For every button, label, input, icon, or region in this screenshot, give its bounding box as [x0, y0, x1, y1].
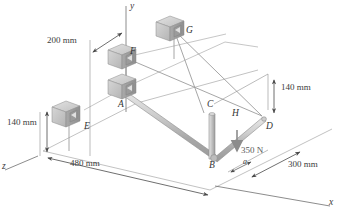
pipe-segment-BC — [209, 113, 215, 159]
point-label-G: G — [186, 26, 193, 36]
point-label-D: D — [266, 122, 273, 132]
point-label-A: A — [118, 100, 124, 110]
x-axis-label: x — [329, 198, 333, 208]
cable-G-to-D — [174, 30, 262, 116]
point-label-E: E — [84, 122, 90, 132]
dimension-label-140mm-right: 140 mm — [281, 83, 311, 92]
dimension-label-480mm: 480 mm — [70, 159, 100, 168]
support-bracket-E — [52, 101, 80, 127]
dimension-label-a: a — [243, 158, 247, 166]
z-axis-line — [5, 156, 38, 170]
point-label-H: H — [232, 109, 239, 119]
load-label-350N: 350 N — [241, 146, 263, 155]
point-label-F: F — [130, 47, 136, 57]
dimension-label-140mm-left: 140 mm — [7, 118, 37, 127]
x-axis-line — [215, 186, 330, 206]
dim-a-arrow — [231, 162, 251, 172]
pipe-segment-AB — [121, 90, 216, 159]
point-label-C: C — [207, 100, 213, 110]
point-label-B: B — [209, 161, 215, 171]
upper-plane-lines — [84, 34, 258, 110]
y-axis-label: y — [130, 2, 134, 12]
diagram-canvas — [0, 0, 341, 214]
support-bracket-G — [156, 16, 184, 41]
dimension-label-200mm: 200 mm — [47, 36, 77, 45]
z-axis-label: z — [2, 162, 6, 172]
statics-diagram-figure: y x z A B C D E F G H 200 mm 140 mm 140 … — [0, 0, 341, 214]
dimension-label-300mm: 300 mm — [288, 160, 318, 169]
